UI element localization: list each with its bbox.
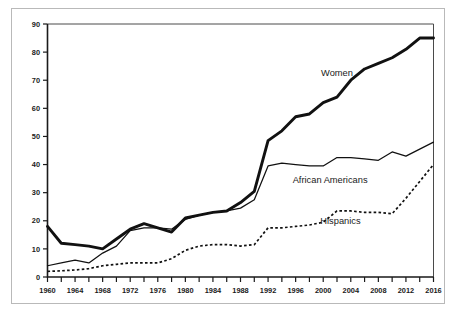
x-axis-label-1992: 1992 (260, 286, 276, 295)
y-axis-label-40: 40 (32, 160, 40, 169)
y-axis-tick-labels: 0102030405060708090 (32, 20, 40, 282)
plot-frame (48, 24, 434, 277)
y-axis-label-20: 20 (32, 216, 40, 225)
axis-ticks (43, 24, 434, 282)
x-axis-label-1964: 1964 (67, 286, 84, 295)
series-annotations: WomenAfrican AmericansHispanics (293, 68, 368, 226)
x-axis-label-1980: 1980 (177, 286, 193, 295)
x-axis-label-2008: 2008 (370, 286, 386, 295)
x-axis-label-1984: 1984 (205, 286, 222, 295)
series-line-hispanics (48, 165, 434, 272)
x-axis-tick-labels: 1960196419681972197619801984198819921996… (39, 286, 441, 295)
annotation-african-americans: African Americans (293, 175, 368, 185)
x-axis-label-1996: 1996 (287, 286, 303, 295)
y-axis-label-60: 60 (32, 104, 40, 113)
x-axis-label-1988: 1988 (232, 286, 248, 295)
x-axis-label-2000: 2000 (315, 286, 331, 295)
y-axis-label-80: 80 (32, 48, 40, 57)
chart-figure: 0102030405060708090 19601964196819721976… (0, 0, 457, 314)
x-axis-label-1972: 1972 (122, 286, 138, 295)
annotation-hispanics: Hispanics (320, 216, 361, 226)
annotation-women: Women (321, 68, 353, 78)
plot-axes-left-bottom (48, 24, 434, 277)
y-axis-label-10: 10 (32, 245, 40, 254)
plot-frame-top-right (48, 24, 434, 277)
x-axis-label-2004: 2004 (343, 286, 360, 295)
x-axis-label-2016: 2016 (425, 286, 441, 295)
x-axis-label-1976: 1976 (150, 286, 166, 295)
x-axis-label-1968: 1968 (94, 286, 110, 295)
line-chart: 0102030405060708090 19601964196819721976… (0, 0, 457, 314)
y-axis-label-70: 70 (32, 76, 40, 85)
y-axis-label-50: 50 (32, 132, 40, 141)
y-axis-label-0: 0 (36, 273, 40, 282)
x-axis-label-2012: 2012 (398, 286, 414, 295)
y-axis-label-90: 90 (32, 20, 40, 29)
x-axis-label-1960: 1960 (39, 286, 55, 295)
series-line-women (48, 38, 434, 249)
data-series-group (48, 38, 434, 271)
y-axis-label-30: 30 (32, 188, 40, 197)
